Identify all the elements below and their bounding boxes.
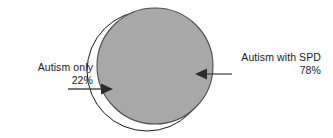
autism-with-spd-circle — [97, 8, 213, 124]
venn-diagram-figure: Autism only 22% Autism with SPD 78% — [0, 0, 333, 138]
autism-with-spd-label-group: Autism with SPD 78% — [233, 51, 321, 77]
autism-only-percent: 22% — [15, 74, 93, 87]
autism-only-label-group: Autism only 22% — [15, 61, 93, 87]
autism-with-spd-percent: 78% — [233, 64, 321, 77]
autism-only-label: Autism only — [38, 61, 93, 73]
autism-with-spd-label: Autism with SPD — [241, 51, 321, 63]
